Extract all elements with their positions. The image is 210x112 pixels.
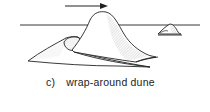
wind-direction-arrow [65,3,108,9]
wrap-around-dune-figure: c) wrap-around dune [0,0,210,112]
small-dune [158,24,182,35]
figure-caption: c) wrap-around dune [0,76,210,88]
wrap-around-dune [28,12,158,67]
dune-diagram [0,0,210,112]
caption-text: wrap-around dune [66,76,154,88]
caption-label: c) [46,76,55,88]
